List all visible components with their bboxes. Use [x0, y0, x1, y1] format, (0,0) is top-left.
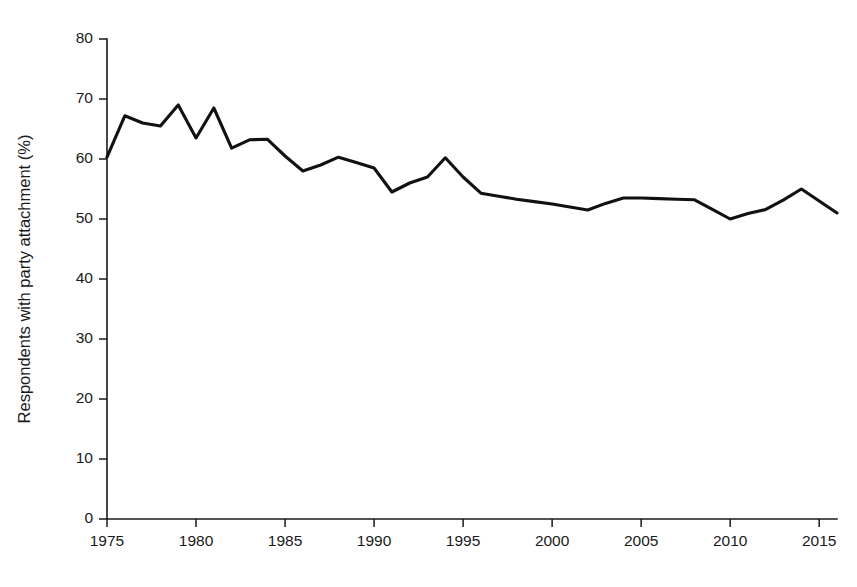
- x-tick-label: 2005: [624, 532, 658, 549]
- y-tick-label: 0: [84, 509, 93, 526]
- line-chart: 01020304050607080 1975198019851990199520…: [0, 0, 857, 587]
- x-tick-label: 2000: [535, 532, 570, 549]
- y-tick-label: 10: [76, 449, 94, 466]
- y-axis-title: Respondents with party attachment (%): [15, 135, 33, 424]
- x-axis-tick-labels: 197519801985199019952000200520102015: [90, 532, 837, 549]
- y-tick-label: 70: [76, 89, 94, 106]
- chart-figure: 01020304050607080 1975198019851990199520…: [0, 0, 857, 587]
- x-tick-label: 2010: [713, 532, 748, 549]
- x-tick-label: 2015: [802, 532, 836, 549]
- y-tick-label: 20: [76, 389, 94, 406]
- x-tick-label: 1975: [90, 532, 124, 549]
- y-tick-label: 50: [76, 209, 94, 226]
- y-tick-label: 80: [76, 29, 94, 46]
- y-axis-tick-labels: 01020304050607080: [76, 29, 94, 526]
- x-tick-label: 1995: [446, 532, 480, 549]
- x-tick-label: 1990: [357, 532, 392, 549]
- x-axis-tick-marks: [107, 519, 819, 527]
- x-tick-label: 1980: [179, 532, 214, 549]
- y-tick-label: 60: [76, 149, 94, 166]
- y-axis-tick-marks: [99, 39, 107, 519]
- y-tick-label: 30: [76, 329, 94, 346]
- x-tick-label: 1985: [268, 532, 302, 549]
- y-tick-label: 40: [76, 269, 94, 286]
- data-series-line: [107, 105, 837, 219]
